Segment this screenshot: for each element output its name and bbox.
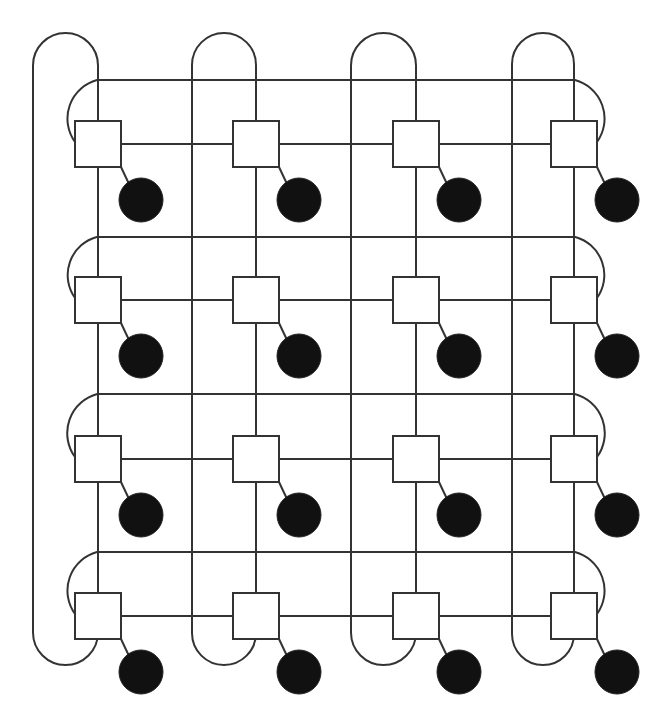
switch-s30 xyxy=(75,593,121,639)
node-link xyxy=(597,639,605,656)
node-link xyxy=(439,323,447,340)
node-link xyxy=(439,167,447,184)
switch-s33 xyxy=(551,593,597,639)
compute-node xyxy=(595,493,639,537)
switch-s21 xyxy=(233,436,279,482)
compute-node xyxy=(595,178,639,222)
compute-node xyxy=(277,178,321,222)
compute-node xyxy=(437,178,481,222)
node-link xyxy=(439,639,447,656)
switch-s10 xyxy=(75,277,121,323)
switch-s32 xyxy=(393,593,439,639)
row-wrap-link xyxy=(67,394,605,457)
compute-node xyxy=(595,650,639,694)
node-link xyxy=(597,323,605,340)
node-link xyxy=(121,323,129,340)
node-link xyxy=(121,167,129,184)
node-link xyxy=(597,482,605,499)
switch-s03 xyxy=(551,121,597,167)
switch-s11 xyxy=(233,277,279,323)
node-link xyxy=(597,167,605,184)
row-links xyxy=(121,144,551,616)
switch-s13 xyxy=(551,277,597,323)
compute-node xyxy=(119,650,163,694)
switch-s12 xyxy=(393,277,439,323)
switch-s00 xyxy=(75,121,121,167)
torus-network-diagram xyxy=(0,0,672,722)
switch-s20 xyxy=(75,436,121,482)
compute-node xyxy=(437,650,481,694)
node-link xyxy=(279,639,287,656)
node-link xyxy=(279,482,287,499)
node-link xyxy=(121,639,129,656)
column-links xyxy=(98,167,574,593)
row-wrap-link xyxy=(68,237,605,298)
compute-node xyxy=(595,334,639,378)
node-links xyxy=(121,167,605,656)
compute-node xyxy=(119,334,163,378)
compute-node xyxy=(437,493,481,537)
switch-s31 xyxy=(233,593,279,639)
compute-node xyxy=(119,178,163,222)
node-link xyxy=(439,482,447,499)
switch-s22 xyxy=(393,436,439,482)
row-wrap-link xyxy=(67,552,604,614)
compute-node xyxy=(277,493,321,537)
compute-node xyxy=(277,650,321,694)
compute-node xyxy=(119,493,163,537)
node-link xyxy=(279,167,287,184)
switch-s02 xyxy=(393,121,439,167)
compute-node xyxy=(437,334,481,378)
switch-s01 xyxy=(233,121,279,167)
row-wrap-link xyxy=(67,80,604,142)
switch-s23 xyxy=(551,436,597,482)
node-link xyxy=(121,482,129,499)
node-link xyxy=(279,323,287,340)
compute-node xyxy=(277,334,321,378)
